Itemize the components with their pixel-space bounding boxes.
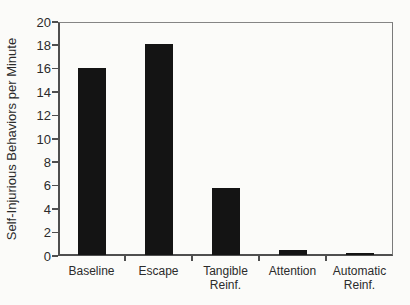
x-tick-mark-4 <box>325 256 327 261</box>
x-tick-mark-1 <box>124 256 126 261</box>
y-tick-mark-16 <box>52 68 58 70</box>
y-tick-mark-20 <box>52 21 58 23</box>
y-tick-label-2: 2 <box>14 226 51 239</box>
y-tick-label-16: 16 <box>14 62 51 75</box>
bar-tangible-reinf <box>212 188 240 255</box>
y-tick-mark-8 <box>52 161 58 163</box>
bar-attention <box>279 250 307 255</box>
x-tick-mark-3 <box>258 256 260 261</box>
y-tick-mark-6 <box>52 185 58 187</box>
y-tick-label-6: 6 <box>14 179 51 192</box>
y-tick-mark-14 <box>52 91 58 93</box>
y-tick-label-12: 12 <box>14 109 51 122</box>
y-tick-mark-18 <box>52 44 58 46</box>
y-tick-label-8: 8 <box>14 156 51 169</box>
y-tick-mark-0 <box>52 255 58 257</box>
x-tick-mark-2 <box>191 256 193 261</box>
bar-baseline <box>78 68 106 255</box>
y-tick-label-14: 14 <box>14 86 51 99</box>
bar-escape <box>145 44 173 255</box>
y-tick-label-0: 0 <box>14 250 51 263</box>
y-tick-label-4: 4 <box>14 203 51 216</box>
y-tick-label-20: 20 <box>14 16 51 29</box>
y-tick-mark-12 <box>52 115 58 117</box>
y-tick-mark-4 <box>52 208 58 210</box>
bar-automatic-reinf <box>346 253 374 255</box>
y-tick-mark-10 <box>52 138 58 140</box>
y-tick-label-10: 10 <box>14 133 51 146</box>
y-tick-label-18: 18 <box>14 39 51 52</box>
y-tick-mark-2 <box>52 232 58 234</box>
x-category-label-automatic-reinf: Automatic Reinf. <box>315 264 405 292</box>
functional-analysis-bar-chart: Self-Injurious Behaviors per Minute 0246… <box>0 0 410 305</box>
